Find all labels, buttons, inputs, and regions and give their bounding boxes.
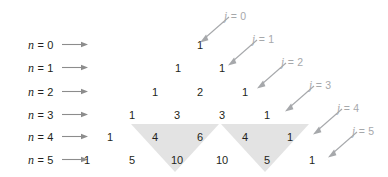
pascal-triangle-figure: n = 0n = 1n = 2n = 3n = 4n = 5 111121133… [0, 0, 388, 177]
pascal-cell-n5-j2: 10 [171, 154, 183, 166]
pascal-cell-n4-j4: 1 [287, 131, 293, 143]
pascal-cell-n5-j1: 5 [129, 154, 135, 166]
pascal-cell-n3-j2: 3 [219, 109, 225, 121]
row-label-value: = 1 [34, 62, 53, 74]
pascal-cell-n2-j1: 2 [197, 86, 203, 98]
diagonal-arrow-5 [323, 130, 363, 164]
pascal-cell-n4-j2: 6 [197, 131, 203, 143]
row-label-value: = 3 [34, 109, 53, 121]
pascal-cell-n3-j0: 1 [129, 109, 135, 121]
row-arrow-0 [62, 39, 88, 50]
pascal-cell-n2-j2: 1 [242, 86, 248, 98]
row-arrow-2 [62, 86, 88, 97]
pascal-cell-n5-j4: 5 [264, 154, 270, 166]
pascal-cell-n4-j1: 4 [152, 131, 158, 143]
row-label-n-2: n = 2 [28, 85, 54, 100]
pascal-cell-n3-j1: 3 [174, 109, 180, 121]
pascal-cell-n1-j0: 1 [175, 62, 181, 74]
pascal-cell-n4-j0: 1 [107, 131, 113, 143]
row-label-n-0: n = 0 [28, 38, 54, 53]
pascal-cell-n2-j0: 1 [152, 86, 158, 98]
row-label-n-5: n = 5 [28, 153, 54, 168]
pascal-cell-n4-j3: 4 [242, 131, 248, 143]
pascal-cell-n3-j3: 1 [264, 109, 270, 121]
row-label-n-4: n = 4 [28, 130, 54, 145]
row-label-value: = 4 [34, 131, 53, 143]
pascal-cell-n5-j5: 1 [309, 154, 315, 166]
row-arrow-1 [62, 62, 88, 73]
pascal-cell-n5-j0: 1 [84, 154, 90, 166]
row-label-n-1: n = 1 [28, 61, 54, 76]
row-label-value: = 0 [34, 39, 53, 51]
row-arrow-4 [62, 131, 88, 142]
pascal-cell-n5-j3: 10 [216, 154, 228, 166]
row-label-value: = 2 [34, 86, 53, 98]
row-arrow-3 [62, 109, 88, 120]
row-label-n-3: n = 3 [28, 108, 54, 123]
row-label-value: = 5 [34, 154, 53, 166]
